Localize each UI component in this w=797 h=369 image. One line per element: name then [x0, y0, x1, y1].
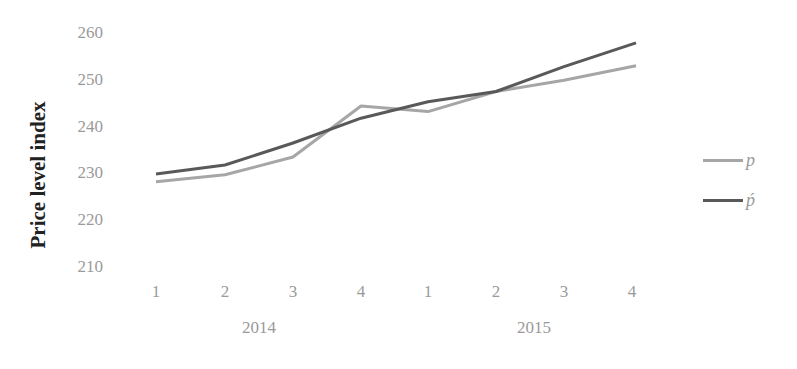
legend-swatch-p: [703, 159, 743, 162]
x-tick: 1: [152, 282, 161, 302]
legend-label-p-prime: ṕ: [746, 190, 755, 211]
x-tick: 4: [628, 282, 637, 302]
x-group-2015: 2015: [517, 318, 551, 338]
x-tick: 2: [492, 282, 501, 302]
x-group-2014: 2014: [242, 318, 276, 338]
legend-label-p: p: [746, 150, 755, 171]
x-tick: 1: [424, 282, 433, 302]
legend-item-p[interactable]: p: [703, 150, 755, 171]
x-tick: 3: [560, 282, 569, 302]
legend-swatch-p-prime: [703, 199, 743, 202]
x-tick: 3: [289, 282, 298, 302]
plot-area: [0, 0, 797, 369]
series-p-prime-line: [156, 43, 636, 174]
x-tick: 2: [221, 282, 230, 302]
x-tick: 4: [357, 282, 366, 302]
legend-item-p-prime[interactable]: ṕ: [703, 190, 755, 211]
